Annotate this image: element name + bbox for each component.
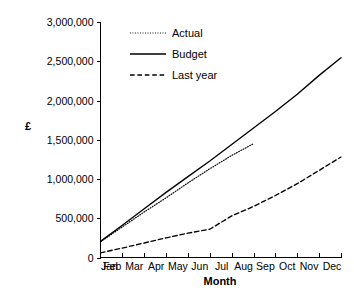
legend-label-last-year: Last year xyxy=(172,69,218,81)
chart-legend: Actual Budget Last year xyxy=(130,27,218,81)
x-tick-label: Oct xyxy=(279,260,295,272)
x-tick-label: Sep xyxy=(256,260,275,272)
legend-label-budget: Budget xyxy=(172,48,207,60)
x-tick-label: Apr xyxy=(148,260,165,272)
y-tick-label: 2,000,000 xyxy=(47,95,94,107)
y-tick-label: 1,000,000 xyxy=(47,173,94,185)
series-line-last-year xyxy=(101,157,342,253)
x-tick-label: Jun xyxy=(191,260,208,272)
x-axis-title: Month xyxy=(204,275,237,287)
x-tick-label: Feb xyxy=(103,260,121,272)
x-tick-label: Jul xyxy=(215,260,228,272)
x-tick-label: Mar xyxy=(125,260,144,272)
y-tick-label: 2,500,000 xyxy=(47,55,94,67)
y-tick-label: 3,000,000 xyxy=(47,16,94,28)
y-axis-ticks xyxy=(97,23,101,259)
x-axis-tick-labels: JanFebMarAprMayJunJulAugSepOctNovDec xyxy=(101,260,341,272)
y-tick-label: 0 xyxy=(88,252,94,264)
y-tick-label: 1,500,000 xyxy=(47,134,94,146)
x-tick-label: Nov xyxy=(300,260,319,272)
series-line-budget xyxy=(101,58,342,242)
x-tick-label: Aug xyxy=(234,260,253,272)
y-tick-label: 500,000 xyxy=(56,212,94,224)
y-axis-tick-labels: 0500,0001,000,0001,500,0002,000,0002,500… xyxy=(47,16,94,264)
x-tick-label: Dec xyxy=(323,260,342,272)
legend-label-actual: Actual xyxy=(172,27,203,39)
chart-canvas: 0500,0001,000,0001,500,0002,000,0002,500… xyxy=(0,0,354,303)
series-line-actual xyxy=(101,144,254,242)
line-chart: 0500,0001,000,0001,500,0002,000,0002,500… xyxy=(0,0,354,303)
y-axis-title: £ xyxy=(25,120,31,132)
x-axis-ticks xyxy=(123,253,342,258)
x-tick-label: May xyxy=(168,260,189,272)
